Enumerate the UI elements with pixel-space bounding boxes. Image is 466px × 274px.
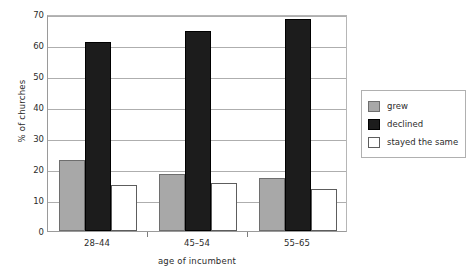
x-category-label: 28–44 bbox=[84, 238, 110, 248]
y-tick-label: 60 bbox=[18, 41, 44, 51]
y-tick-label: 0 bbox=[18, 227, 44, 237]
bar-stayed-the-same bbox=[211, 183, 237, 231]
legend-swatch-icon bbox=[368, 101, 380, 112]
legend-item-stayed-the-same[interactable]: stayed the same bbox=[368, 133, 458, 151]
y-tick-label: 40 bbox=[18, 103, 44, 113]
legend-swatch-icon bbox=[368, 119, 380, 130]
bar-group bbox=[148, 16, 248, 231]
bar-declined bbox=[85, 42, 111, 231]
y-tick-label: 30 bbox=[18, 134, 44, 144]
legend-item-grew[interactable]: grew bbox=[368, 97, 458, 115]
x-axis-tick bbox=[147, 232, 148, 237]
bar-group bbox=[48, 16, 148, 231]
y-tick-label: 50 bbox=[18, 72, 44, 82]
plot-area bbox=[47, 15, 347, 232]
bar-grew bbox=[59, 160, 85, 231]
y-tick-label: 70 bbox=[18, 10, 44, 20]
x-category-label: 55–65 bbox=[284, 238, 310, 248]
bar-grew bbox=[259, 178, 285, 231]
bar-stayed-the-same bbox=[111, 185, 137, 231]
x-axis-tick bbox=[247, 232, 248, 237]
legend-swatch-icon bbox=[368, 137, 380, 148]
bar-declined bbox=[285, 19, 311, 231]
bar-declined bbox=[185, 31, 211, 231]
bar-stayed-the-same bbox=[311, 189, 337, 231]
x-axis-title: age of incumbent bbox=[47, 256, 347, 266]
legend-label: declined bbox=[387, 119, 423, 129]
y-tick-label: 10 bbox=[18, 196, 44, 206]
legend: grewdeclinedstayed the same bbox=[361, 90, 466, 158]
legend-item-declined[interactable]: declined bbox=[368, 115, 458, 133]
bar-grew bbox=[159, 174, 185, 231]
y-tick-label: 20 bbox=[18, 165, 44, 175]
bar-group bbox=[248, 16, 348, 231]
legend-label: stayed the same bbox=[387, 137, 458, 147]
x-category-label: 45–54 bbox=[184, 238, 210, 248]
legend-label: grew bbox=[387, 101, 408, 111]
